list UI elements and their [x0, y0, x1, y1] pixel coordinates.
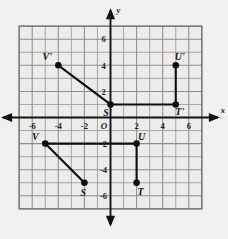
- x-tick-label: -2: [81, 121, 88, 131]
- point-V: [42, 140, 49, 147]
- x-axis-arrow-right: [209, 113, 220, 122]
- x-tick-label: 2: [134, 121, 138, 131]
- point-label-T: T: [138, 186, 145, 197]
- x-tick-label: -4: [55, 121, 63, 131]
- point-label-Tp: T': [175, 106, 184, 117]
- point-label-U: U: [138, 131, 146, 142]
- point-label-Vp: V': [43, 51, 53, 62]
- origin-label: O: [101, 121, 108, 131]
- point-Vp: [55, 62, 62, 69]
- y-axis-label: y: [116, 5, 121, 15]
- y-axis-arrow-up: [106, 8, 115, 19]
- x-axis-label: x: [220, 105, 226, 115]
- point-label-S: S: [81, 187, 87, 198]
- graph-canvas: xy-6-4-2246642-2-4-6OSTUVS'T'U'V': [0, 0, 228, 239]
- point-S: [81, 179, 88, 186]
- y-tick-label: 2: [101, 87, 105, 97]
- point-Up: [172, 62, 179, 69]
- x-tick-label: -6: [29, 121, 36, 131]
- y-axis-arrow-down: [106, 216, 115, 227]
- y-tick-label: -6: [100, 191, 107, 201]
- x-tick-label: 4: [161, 121, 166, 131]
- x-axis-arrow-left: [1, 113, 12, 122]
- y-tick-label: -4: [100, 165, 108, 175]
- x-tick-label: 6: [187, 121, 191, 131]
- coordinate-plane-figure: xy-6-4-2246642-2-4-6OSTUVS'T'U'V': [0, 0, 228, 239]
- point-label-Sp: S': [103, 107, 112, 118]
- point-label-Up: U': [175, 51, 185, 62]
- y-tick-label: 6: [101, 34, 105, 44]
